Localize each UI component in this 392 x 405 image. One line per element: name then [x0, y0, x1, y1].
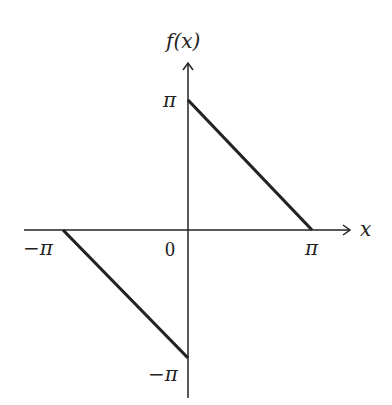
y-tick-neg-pi: −π [148, 362, 179, 386]
origin-label: 0 [165, 238, 175, 260]
segment-right [188, 100, 312, 230]
function-plot: f(x) x π −π −π π 0 [0, 0, 392, 405]
x-tick-pi: π [304, 236, 319, 260]
y-tick-pi: π [162, 88, 177, 112]
x-tick-neg-pi: −π [23, 236, 54, 260]
y-axis-label: f(x) [164, 29, 200, 53]
x-axis-label: x [360, 217, 371, 241]
